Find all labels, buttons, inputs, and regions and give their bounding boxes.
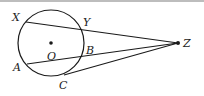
secant-tangent-diagram: X Y Z O B A C	[0, 0, 204, 96]
label-z: Z	[182, 37, 191, 50]
label-y: Y	[83, 16, 92, 29]
center-point-o	[49, 41, 53, 45]
label-x: X	[11, 11, 21, 24]
label-o: O	[47, 50, 56, 63]
label-c: C	[59, 79, 68, 92]
secant-xz	[26, 22, 178, 43]
tangent-cz	[64, 43, 178, 75]
label-b: B	[85, 44, 94, 57]
point-z	[176, 41, 180, 45]
label-a: A	[12, 61, 21, 74]
